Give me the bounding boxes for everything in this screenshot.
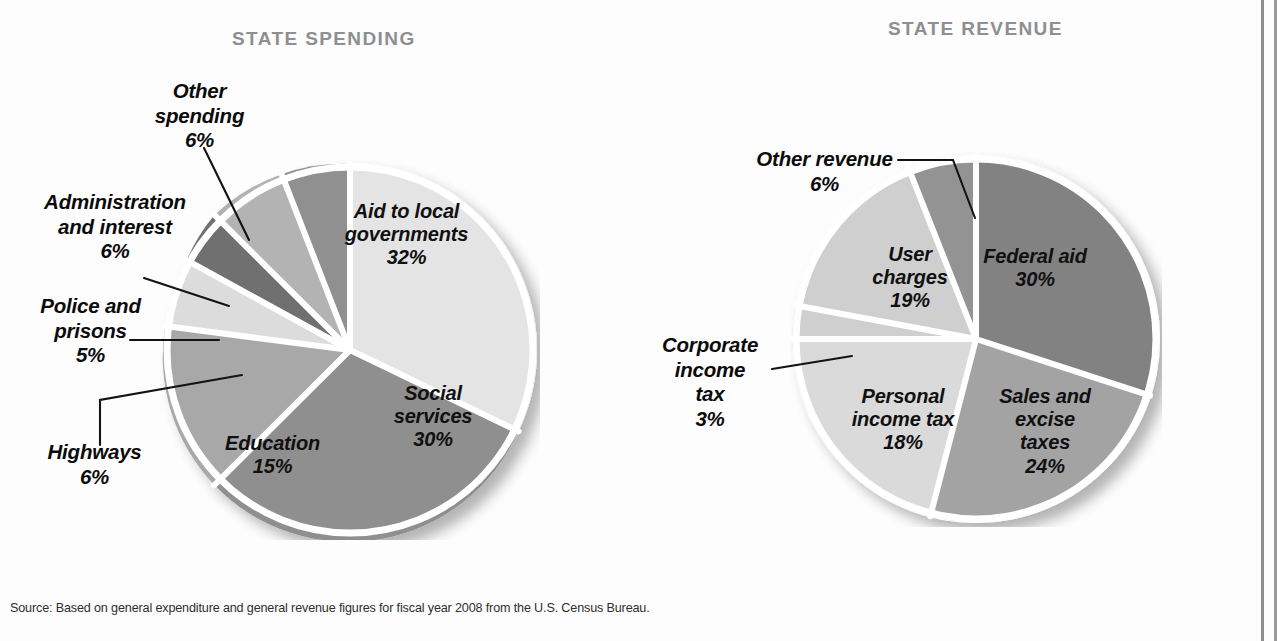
callout-label-administration-and-interest: Administration and interest 6% bbox=[10, 190, 220, 264]
callout-label-highways: Highways 6% bbox=[22, 440, 167, 489]
right-edge-rule bbox=[1261, 0, 1264, 641]
slice-label-user-charges: User charges 19% bbox=[855, 243, 965, 313]
figure-canvas: STATE SPENDING bbox=[0, 0, 1277, 641]
slice-label-personal-income-tax: Personal income tax 18% bbox=[832, 385, 974, 455]
callout-label-corporate-income-tax: Corporate income tax 3% bbox=[636, 333, 784, 431]
callout-label-other-revenue: Other revenue 6% bbox=[717, 147, 932, 196]
slice-label-federal-aid: Federal aid 30% bbox=[955, 245, 1115, 291]
state-spending-title: STATE SPENDING bbox=[232, 28, 416, 50]
callout-label-other-spending: Other spending 6% bbox=[133, 79, 266, 153]
slice-label-aid-to-local-governments: Aid to local governments 32% bbox=[314, 200, 499, 270]
callout-label-police-and-prisons: Police and prisons 5% bbox=[18, 294, 163, 368]
slice-label-social-services: Social services 30% bbox=[368, 382, 498, 452]
state-revenue-title: STATE REVENUE bbox=[888, 18, 1063, 40]
source-note: Source: Based on general expenditure and… bbox=[10, 601, 650, 615]
slice-label-education: Education 15% bbox=[205, 432, 340, 478]
slice-label-sales-and-excise-taxes: Sales and excise taxes 24% bbox=[980, 385, 1110, 478]
